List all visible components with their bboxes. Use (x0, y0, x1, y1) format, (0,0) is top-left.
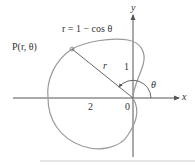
radius-line (72, 49, 133, 98)
equation-label: r = 1 − cos θ (62, 24, 112, 34)
y-axis-label: y (131, 3, 135, 13)
angle-label: θ (151, 80, 156, 90)
radius-label: r (103, 61, 107, 71)
tick-label-origin: 0 (125, 102, 130, 112)
cardioid-curve (48, 39, 144, 149)
point-label: P(r, θ) (12, 42, 37, 52)
x-axis-label: x (182, 92, 186, 102)
cardioid-diagram: r = 1 − cos θ P(r, θ) r θ x y 2 0 1 (0, 0, 195, 165)
tick-label-2: 2 (88, 102, 93, 112)
bottom-divider (40, 160, 195, 162)
tick-label-1: 1 (124, 62, 129, 72)
